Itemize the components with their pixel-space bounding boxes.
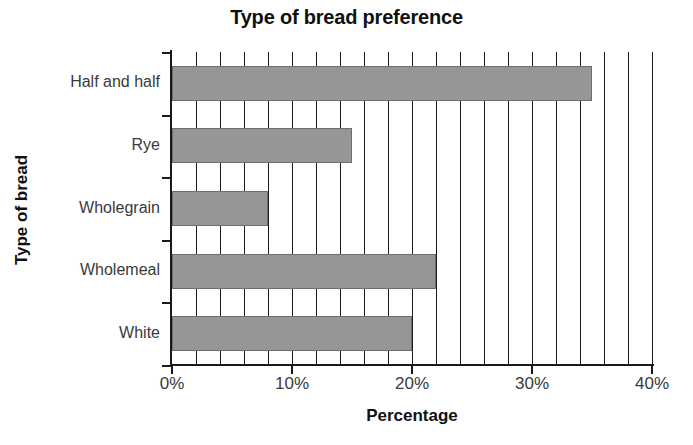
x-axis-tick-label: 0%	[132, 374, 212, 394]
y-axis-tick	[162, 177, 171, 179]
x-axis-tick	[531, 366, 533, 374]
plot-area	[172, 52, 652, 365]
x-axis-tick-label: 20%	[372, 374, 452, 394]
y-axis-tick-label: Half and half	[20, 73, 160, 91]
y-axis-tick-label: Wholemeal	[20, 261, 160, 279]
gridline	[628, 52, 629, 365]
y-axis-tick	[162, 115, 171, 117]
x-axis-tick-label: 30%	[492, 374, 572, 394]
y-axis-tick	[162, 302, 171, 304]
bar	[172, 191, 268, 226]
x-axis-tick-label: 40%	[612, 374, 692, 394]
gridline	[604, 52, 605, 365]
bar	[172, 128, 352, 163]
y-axis-tick	[162, 240, 171, 242]
y-axis-tick-label: Rye	[20, 136, 160, 154]
x-axis-tick	[411, 366, 413, 374]
bar-chart: Type of bread preference Type of bread P…	[0, 0, 693, 445]
y-axis-tick-label: Wholegrain	[20, 199, 160, 217]
bar	[172, 316, 412, 351]
y-axis-tick-label: White	[20, 324, 160, 342]
x-axis-tick	[651, 366, 653, 374]
x-axis-tick-label: 10%	[252, 374, 332, 394]
x-axis-tick	[171, 366, 173, 374]
x-axis-title: Percentage	[172, 406, 652, 426]
gridline	[652, 52, 653, 365]
y-axis-tick	[162, 365, 171, 367]
y-axis-tick	[162, 52, 171, 54]
x-axis-tick	[291, 366, 293, 374]
bar	[172, 66, 592, 101]
bar	[172, 254, 436, 289]
